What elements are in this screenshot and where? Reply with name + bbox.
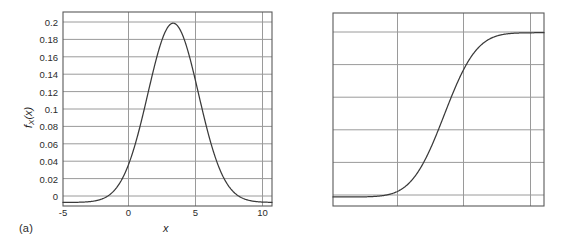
grid-horizontal-b	[333, 32, 544, 195]
ytick-label-a-6: 0.12	[8, 87, 58, 98]
xtick-label-a-0: -5	[48, 207, 78, 218]
ytick-label-a-1: 0.02	[8, 174, 58, 185]
ytick-label-a-7: 0.14	[8, 69, 58, 80]
xtick-label-a-1: 0	[114, 207, 144, 218]
panel-b: 0 0.2 0.4 0.6 0.8 1 -5 0 5 10 x FX(x) (b…	[285, 0, 570, 249]
panel-tag-a: (a)	[19, 222, 33, 234]
curve-pdf-a	[63, 23, 272, 202]
ytick-label-a-0: 0	[8, 191, 58, 202]
ytick-label-a-2: 0.04	[8, 156, 58, 167]
plot-frame-b	[333, 13, 544, 206]
grid-horizontal-a	[63, 22, 272, 196]
grid-vertical-b	[398, 13, 531, 206]
figure-two-panel-gaussian: 0 0.02 0.04 0.06 0.08 0.1 0.12 0.14 0.16…	[0, 0, 570, 249]
ytick-label-a-8: 0.16	[8, 52, 58, 63]
curve-cdf-b	[333, 33, 544, 197]
panel-a: 0 0.02 0.04 0.06 0.08 0.1 0.12 0.14 0.16…	[0, 0, 285, 249]
plot-b-canvas	[285, 0, 570, 249]
yaxis-title-a: fX(x)	[22, 107, 34, 128]
xtick-label-a-3: 10	[248, 207, 278, 218]
ytick-label-a-10: 0.2	[8, 17, 58, 28]
ytick-label-a-3: 0.06	[8, 139, 58, 150]
xaxis-title-a: x	[163, 222, 169, 234]
xtick-label-a-2: 5	[181, 207, 211, 218]
ytick-label-a-9: 0.18	[8, 34, 58, 45]
